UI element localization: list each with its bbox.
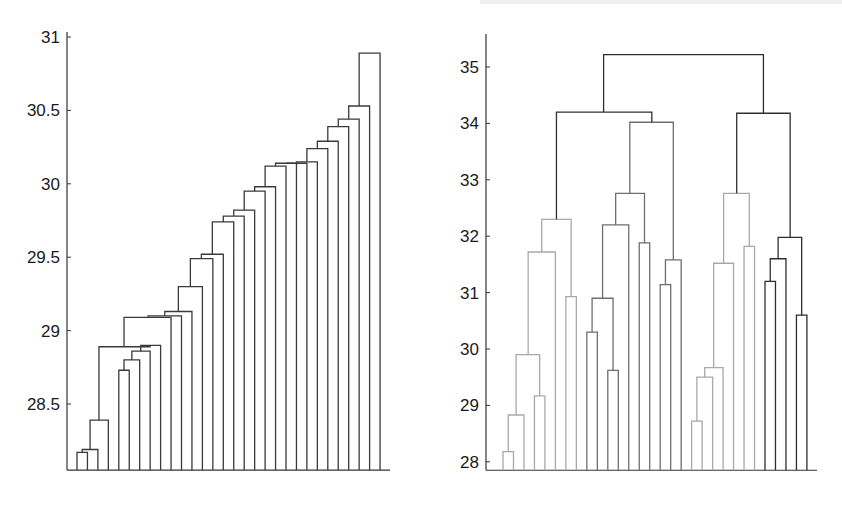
dendrogram-link xyxy=(528,252,555,470)
left-dendrogram-panel: 3130.53029.52928.5 xyxy=(0,0,421,505)
dendrogram-link xyxy=(503,452,513,471)
dendrogram-link xyxy=(603,225,629,470)
dendrogram-link xyxy=(639,243,649,470)
left-dendrogram-chart: 3130.53029.52928.5 xyxy=(0,0,421,505)
dendrogram-link xyxy=(190,259,212,470)
dendrogram-link xyxy=(124,317,171,470)
y-tick-label: 30 xyxy=(460,340,479,359)
dendrogram-link xyxy=(566,297,576,471)
dendrogram-link xyxy=(587,332,597,470)
y-tick-label: 30.5 xyxy=(27,101,60,120)
y-tick-label: 35 xyxy=(460,58,479,77)
dendrogram-link xyxy=(724,193,750,263)
right-dendrogram-chart: 3534333231302928 xyxy=(421,0,842,505)
dendrogram-link xyxy=(516,355,540,415)
dendrogram-link xyxy=(132,351,150,470)
dendrogram-link xyxy=(737,113,790,237)
y-tick-label: 29 xyxy=(460,396,479,415)
y-tick-label: 28.5 xyxy=(27,395,60,414)
dendrogram-link xyxy=(508,415,524,470)
dendrogram-link xyxy=(542,219,571,296)
dendrogram-link xyxy=(705,368,723,471)
dendrogram-link xyxy=(124,360,140,470)
dendrogram-link xyxy=(592,298,613,370)
dendrogram-link xyxy=(630,122,673,260)
dendrogram-link xyxy=(744,246,754,470)
dendrogram-link xyxy=(660,285,670,471)
y-tick-label: 28 xyxy=(460,453,479,472)
dendrogram-link xyxy=(796,315,806,470)
dendrogram-link xyxy=(90,420,108,470)
dendrogram-link xyxy=(616,193,645,243)
y-tick-label: 32 xyxy=(460,227,479,246)
dendrogram-link xyxy=(99,345,150,420)
y-tick-label: 30 xyxy=(41,175,60,194)
dendrogram-link xyxy=(148,316,181,470)
dendrogram-link xyxy=(770,259,786,471)
dendrogram-link xyxy=(665,260,681,470)
dendrogram-link xyxy=(165,312,192,471)
y-tick-label: 29 xyxy=(41,322,60,341)
dendrogram-link xyxy=(534,396,544,470)
dendrogram-link xyxy=(697,377,713,470)
dendrogram-link xyxy=(119,370,129,470)
dendrogram-link xyxy=(556,112,651,219)
dendrogram-link xyxy=(765,281,775,470)
right-dendrogram-panel: 3534333231302928 xyxy=(421,0,842,505)
dendrogram-link xyxy=(608,370,618,470)
dendrogram-link xyxy=(692,421,702,470)
dendrogram-link xyxy=(604,55,764,114)
y-tick-label: 31 xyxy=(460,284,479,303)
y-tick-label: 29.5 xyxy=(27,248,60,267)
y-tick-label: 34 xyxy=(460,114,479,133)
dendrogram-link xyxy=(778,237,802,315)
y-tick-label: 31 xyxy=(41,28,60,47)
dendrogram-link xyxy=(77,452,87,470)
y-tick-label: 33 xyxy=(460,171,479,190)
